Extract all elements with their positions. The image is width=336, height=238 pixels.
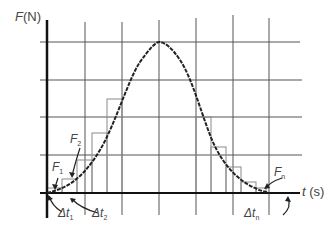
grid-lines — [40, 15, 302, 215]
label-dt1: Δt1 — [58, 206, 73, 221]
label-fn: Fn — [274, 165, 285, 180]
dt1-var: Δt — [58, 206, 69, 220]
label-f2: F2 — [70, 132, 81, 147]
label-f1: F1 — [52, 160, 63, 175]
dtn-sub: n — [255, 214, 259, 221]
dtn-var: Δt — [244, 206, 255, 220]
y-axis-var: F — [15, 9, 23, 24]
x-axis-unit: (s) — [309, 184, 324, 199]
y-axis-label: F(N) — [15, 9, 41, 24]
label-dtn: Δtn — [244, 206, 259, 221]
f2-sub: 2 — [77, 140, 81, 147]
dt1-sub: 1 — [69, 214, 73, 221]
dt2-var: Δt — [92, 206, 103, 220]
y-axis-unit: (N) — [23, 9, 41, 24]
f1-sub: 1 — [59, 168, 63, 175]
x-axis-label: t (s) — [302, 184, 324, 199]
force-time-diagram — [0, 0, 336, 238]
dt2-sub: 2 — [103, 214, 107, 221]
x-axis-var: t — [302, 184, 306, 199]
fn-sub: n — [281, 173, 285, 180]
label-dt2: Δt2 — [92, 206, 107, 221]
